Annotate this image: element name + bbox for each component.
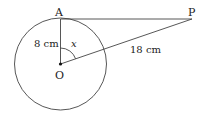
label-angle-x: x xyxy=(71,38,77,49)
center-point xyxy=(59,62,62,65)
label-o: O xyxy=(55,69,64,82)
geometry-diagram: A P O 8 cm x 18 cm xyxy=(0,0,204,117)
label-radius: 8 cm xyxy=(34,38,59,49)
angle-arc xyxy=(61,48,76,59)
label-p: P xyxy=(188,6,196,19)
label-a: A xyxy=(54,6,64,19)
label-op-length: 18 cm xyxy=(130,44,162,55)
line-op xyxy=(61,19,193,64)
